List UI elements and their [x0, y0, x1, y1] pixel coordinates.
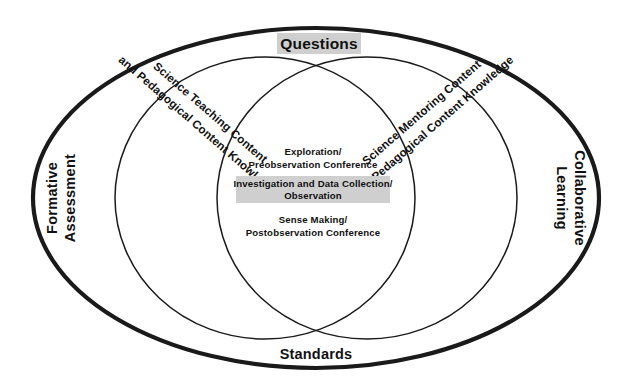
formative-assessment-line1: Formative: [44, 162, 60, 234]
collaborative-learning-label: Collaborative Learning: [554, 150, 588, 246]
center-item-2-line1: Investigation and Data Collection/: [233, 178, 392, 189]
center-item-3-line2: Postobservation Conference: [246, 227, 381, 238]
center-item-1-line2: Preobservation Conference: [248, 159, 377, 170]
collaborative-learning-line2: Learning: [554, 166, 570, 230]
collaborative-learning-line1: Collaborative: [572, 150, 588, 246]
center-item-2-line2: Observation: [284, 190, 342, 201]
center-item-sense-making: Sense Making/ Postobservation Conference: [246, 214, 381, 238]
questions-label: Questions: [280, 35, 358, 52]
formative-assessment-label: Formative Assessment: [44, 154, 78, 242]
right-circle-label-line1: Science Mentoring Content: [359, 57, 483, 167]
venn-diagram: Questions Standards Formative Assessment…: [0, 0, 628, 390]
formative-assessment-line2: Assessment: [62, 154, 78, 242]
left-circle-label-line1: Science Teaching Content: [151, 59, 270, 165]
standards-label: Standards: [280, 346, 353, 362]
center-item-1-line1: Exploration/: [284, 146, 341, 157]
center-item-3-line1: Sense Making/: [279, 214, 348, 225]
diagram-canvas: Questions Standards Formative Assessment…: [0, 0, 628, 390]
